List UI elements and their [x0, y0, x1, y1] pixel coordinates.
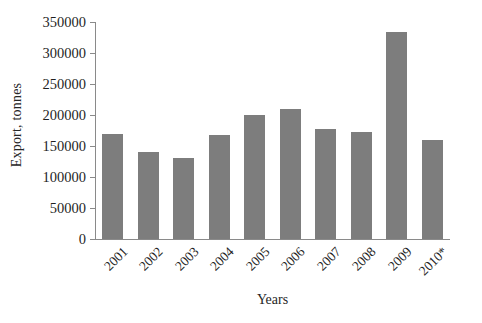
x-tick-label: 2001	[101, 244, 131, 274]
x-tick-label: 2004	[207, 244, 237, 274]
x-tick-label: 2005	[243, 244, 273, 274]
x-tick-label: 2002	[136, 244, 166, 274]
bar[interactable]	[102, 134, 123, 239]
y-tick-mark	[90, 115, 95, 116]
bar[interactable]	[209, 135, 230, 239]
x-tick-label: 2009	[385, 244, 415, 274]
y-tick-label: 350000	[43, 14, 87, 31]
y-tick-label: 200000	[43, 107, 87, 124]
y-tick-mark	[90, 146, 95, 147]
y-tick-mark	[90, 22, 95, 23]
y-tick-label: 50000	[50, 200, 86, 217]
y-tick-label: 250000	[43, 76, 87, 93]
bar[interactable]	[138, 152, 159, 239]
bar[interactable]	[386, 32, 407, 239]
y-axis-title-label: Export, tonnes	[9, 83, 25, 167]
x-axis-line	[95, 239, 450, 240]
bar-chart-figure: Export, tonnes 0500001000001500002000002…	[0, 0, 482, 323]
bar[interactable]	[244, 115, 265, 239]
bar[interactable]	[351, 132, 372, 239]
y-tick-mark	[90, 177, 95, 178]
bar[interactable]	[280, 109, 301, 239]
bar[interactable]	[315, 129, 336, 239]
x-tick-label: 2010*	[415, 244, 450, 279]
y-axis-title: Export, tonnes	[0, 0, 34, 250]
y-tick-mark	[90, 53, 95, 54]
x-tick-label: 2007	[314, 244, 344, 274]
y-tick-label: 0	[79, 231, 86, 248]
y-tick-mark	[90, 208, 95, 209]
y-tick-label: 300000	[43, 45, 87, 62]
y-tick-label: 150000	[43, 138, 87, 155]
y-tick-mark	[90, 239, 95, 240]
plot-area: 0500001000001500002000002500003000003500…	[95, 22, 450, 239]
y-axis-line	[95, 22, 96, 240]
bar[interactable]	[173, 158, 194, 239]
bar[interactable]	[422, 140, 443, 239]
x-axis-title: Years	[95, 292, 450, 308]
y-tick-mark	[90, 84, 95, 85]
x-tick-label: 2008	[349, 244, 379, 274]
x-tick-label: 2003	[172, 244, 202, 274]
y-tick-label: 100000	[43, 169, 87, 186]
x-tick-label: 2006	[278, 244, 308, 274]
